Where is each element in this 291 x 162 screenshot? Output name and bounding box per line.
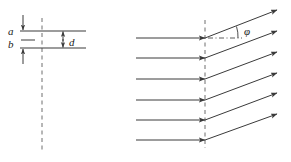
angle-arc: [237, 27, 239, 39]
plane-b-label: b: [8, 38, 14, 50]
outgoing-ray: [205, 10, 277, 38]
lattice-planes-panel: a b d: [8, 15, 86, 150]
outgoing-ray: [205, 73, 277, 100]
optics-diffraction-figure: a b d φ: [0, 0, 291, 162]
plane-a-label: a: [8, 25, 14, 37]
angle-phi-label: φ: [244, 25, 250, 37]
ray-deflection-panel: φ: [136, 10, 277, 148]
outgoing-ray: [205, 93, 277, 120]
spacing-d-label: d: [69, 36, 75, 48]
figure-canvas: a b d φ: [0, 0, 291, 162]
outgoing-ray: [205, 114, 277, 140]
outgoing-ray: [205, 31, 277, 58]
outgoing-ray: [205, 52, 277, 79]
